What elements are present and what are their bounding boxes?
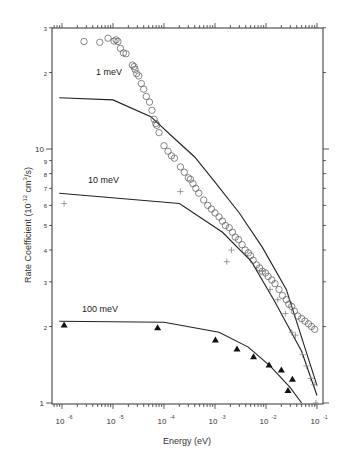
circle-marker	[97, 39, 103, 45]
y-axis-title: Rate Coefficient (10-12 cm3/s)	[22, 167, 33, 283]
circle-marker	[196, 190, 202, 196]
circle-marker	[212, 210, 218, 216]
x-tick-exponent: -1	[323, 414, 328, 420]
circle-marker	[154, 122, 160, 128]
x-tick-label: 10	[260, 417, 269, 426]
x-axis: 10-610-510-410-310-210-1	[54, 23, 328, 426]
circle-marker	[81, 38, 87, 44]
x-axis-title: Energy (eV)	[163, 436, 211, 446]
x-tick-exponent: -5	[119, 414, 124, 420]
circle-marker	[205, 202, 211, 208]
plus-marker	[300, 352, 306, 358]
y-axis: 1234567891023	[35, 26, 329, 408]
y-axis-title-text: Rate Coefficient (10-12 cm3/s)	[22, 167, 33, 283]
circle-marker	[216, 214, 222, 220]
plus-marker	[177, 189, 183, 195]
circle-marker	[226, 224, 232, 230]
plot-border	[52, 28, 323, 404]
x-tick-exponent: -4	[170, 414, 175, 420]
circle-marker	[181, 169, 187, 175]
chart: 10-610-510-410-310-210-1 1234567891023 1…	[0, 0, 343, 459]
circle-marker	[113, 37, 119, 43]
plus-marker	[282, 311, 288, 317]
y-tick-label: 6	[44, 203, 48, 209]
triangle-marker	[212, 337, 219, 343]
series-label: 100 meV	[82, 304, 118, 314]
y-tick-label: 8	[44, 172, 48, 178]
y-tick-label: 2	[44, 71, 48, 77]
curve-1-mev	[59, 98, 317, 386]
circle-marker	[156, 129, 162, 135]
triangle-marker	[233, 346, 240, 352]
x-tick-exponent: -2	[272, 414, 277, 420]
plus-marker	[267, 286, 273, 292]
x-tick-label: 10	[107, 417, 116, 426]
circle-marker	[146, 99, 152, 105]
circle-marker	[208, 206, 214, 212]
circle-marker	[115, 38, 121, 44]
y-tick-label: 9	[44, 159, 48, 165]
circle-marker	[165, 148, 171, 154]
curve-10-mev	[59, 193, 317, 395]
y-tick-label: 2	[44, 325, 48, 331]
x-tick-exponent: -3	[221, 414, 226, 420]
circle-marker	[222, 222, 228, 228]
circle-marker	[161, 143, 167, 149]
x-tick-label: 10	[209, 417, 218, 426]
x-tick-label: 10	[311, 417, 320, 426]
plot-frame	[52, 28, 323, 404]
circle-marker	[229, 229, 235, 235]
series-labels: 1 meV10 meV100 meV	[82, 67, 122, 314]
triangle-marker	[154, 324, 161, 330]
x-tick-label: 10	[56, 417, 65, 426]
triangle-marker	[61, 321, 68, 327]
triangle-marker	[289, 376, 296, 382]
plus-marker	[61, 201, 67, 207]
x-tick-exponent: -6	[68, 414, 73, 420]
plus-marker	[303, 363, 309, 369]
plus-marker	[224, 259, 230, 265]
circle-marker	[193, 185, 199, 191]
circle-marker	[279, 292, 285, 298]
triangle-marker	[278, 366, 285, 372]
plus-marker	[313, 400, 319, 406]
series-label: 10 meV	[88, 175, 119, 185]
x-tick-label: 10	[158, 417, 167, 426]
y-tick-label: 1	[40, 399, 45, 408]
plus-marker	[228, 247, 234, 253]
circle-marker	[149, 107, 155, 113]
y-tick-label: 3	[44, 26, 48, 32]
y-tick-label: 10	[35, 145, 44, 154]
circle-marker	[117, 45, 123, 51]
y-tick-label: 7	[44, 186, 48, 192]
circle-marker	[200, 197, 206, 203]
circle-marker	[141, 86, 147, 92]
plus-marker	[308, 375, 314, 381]
model-curves	[59, 98, 317, 403]
y-tick-label: 4	[44, 248, 48, 254]
circle-marker	[276, 286, 282, 292]
curve-100-mev	[59, 321, 301, 403]
circle-marker	[185, 175, 191, 181]
circle-marker	[105, 35, 111, 41]
circle-marker	[219, 218, 225, 224]
y-tick-label: 3	[44, 280, 48, 286]
data-points	[61, 35, 319, 406]
y-tick-label: 5	[44, 223, 48, 229]
series-label: 1 meV	[96, 67, 122, 77]
